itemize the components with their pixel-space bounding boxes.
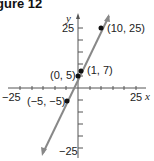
x-min-label: −25	[2, 91, 21, 103]
point-label-1-7: (1, 7)	[87, 64, 113, 76]
y-axis-arrow-icon	[76, 13, 80, 19]
point-label-neg5-neg5: (−5, −5)	[27, 95, 66, 107]
y-min-label: −25	[59, 145, 78, 157]
x-axis-label: x	[144, 90, 150, 102]
chart-plot: y x 25 −25 −25 25 (10, 25) (1, 7) (0, 5)…	[0, 0, 154, 161]
point-label-0-5: (0, 5)	[50, 69, 76, 81]
line-y-2x-plus-5	[43, 16, 109, 153]
x-max-label: 25	[130, 91, 142, 103]
point-10-25	[99, 26, 104, 31]
y-max-label: 25	[62, 22, 74, 34]
point-label-10-25: (10, 25)	[107, 22, 145, 34]
line-arrow-up-icon	[104, 14, 110, 22]
point-0-5	[76, 74, 81, 79]
point-1-7	[79, 69, 84, 74]
